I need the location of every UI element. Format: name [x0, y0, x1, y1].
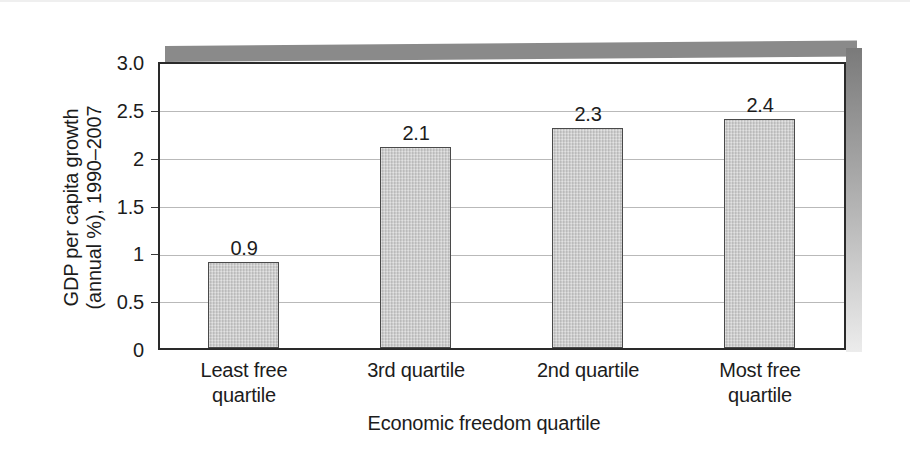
y-tick-label: 1.5	[86, 196, 144, 219]
bar-least-free-quartile[interactable]	[208, 262, 279, 348]
y-tick-mark	[151, 159, 158, 160]
x-category-label-2nd-quartile: 2nd quartile	[518, 358, 658, 383]
bar-3rd-quartile[interactable]	[380, 147, 451, 348]
x-axis-title-wrap: Economic freedom quartile	[0, 412, 910, 435]
x-category-line: Least free	[174, 358, 314, 383]
y-tick-mark	[151, 254, 158, 255]
x-axis-title: Economic freedom quartile	[368, 412, 601, 435]
x-category-line: 3rd quartile	[346, 358, 486, 383]
bar-value-label: 2.3	[544, 103, 632, 126]
y-tick-label: 2.5	[86, 100, 144, 123]
x-category-label-most-free-quartile: Most free quartile	[690, 358, 830, 408]
x-category-line: quartile	[174, 383, 314, 408]
bar-2nd-quartile[interactable]	[552, 128, 623, 348]
x-category-line: 2nd quartile	[518, 358, 658, 383]
y-tick-label: 1	[86, 243, 144, 266]
y-tick-label: 2	[86, 148, 144, 171]
y-axis-title-line-1: GDP per capita growth	[60, 83, 83, 333]
y-tick-mark	[151, 111, 158, 112]
bar-most-free-quartile[interactable]	[724, 119, 795, 348]
x-category-line: Most free	[690, 358, 830, 383]
x-category-label-3rd-quartile: 3rd quartile	[346, 358, 486, 383]
bar-value-label: 2.4	[716, 94, 804, 117]
scan-right-shadow-gradient	[846, 48, 862, 352]
scan-top-shadow-band	[165, 41, 857, 62]
y-tick-mark	[151, 207, 158, 208]
x-category-label-least-free-quartile: Least free quartile	[174, 358, 314, 408]
bar-value-label: 0.9	[200, 237, 288, 260]
y-tick-mark	[151, 302, 158, 303]
bar-value-label: 2.1	[372, 122, 460, 145]
y-axis-tick-labels: 3.0 2.5 2 1.5 1 0.5 0	[86, 0, 144, 461]
y-tick-label: 0	[86, 339, 144, 362]
y-tick-label: 3.0	[86, 52, 144, 75]
x-category-line: quartile	[690, 383, 830, 408]
y-tick-label: 0.5	[86, 291, 144, 314]
bar-chart-figure: GDP per capita growth (annual %), 1990–2…	[0, 0, 910, 461]
